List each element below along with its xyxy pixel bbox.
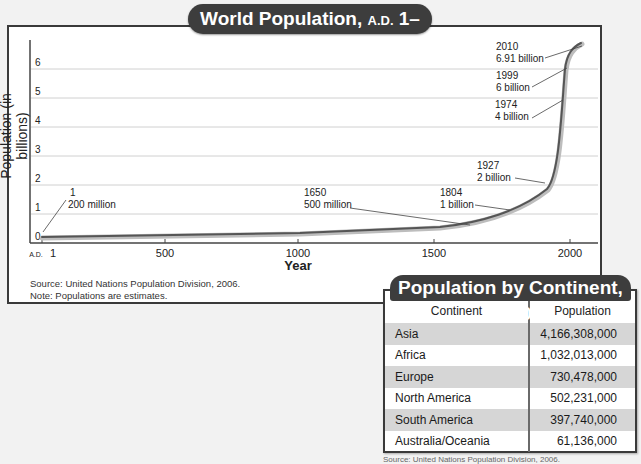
table-row: Australia/Oceania 61,136,000 [385, 431, 635, 453]
annotation-1-year: 1 [70, 187, 76, 198]
annotation-1999-year: 1999 [496, 70, 519, 81]
chart-source: Source: United Nations Population Divisi… [30, 278, 240, 290]
annotation-1999-value: 6 billion [496, 82, 530, 93]
y-tick-6: 6 [35, 57, 41, 68]
chart-source-note: Source: United Nations Population Divisi… [30, 278, 240, 302]
annotation-1927-value: 2 billion [477, 172, 511, 183]
annotation-2010-year: 2010 [496, 41, 519, 52]
annotation-1927-year: 1927 [477, 160, 500, 171]
continent-cell: South America [385, 409, 529, 431]
continent-cell: Europe [385, 366, 529, 388]
column-header-population: Population [529, 299, 635, 323]
x-tick-1500: 1500 [422, 247, 446, 259]
y-tick-5: 5 [35, 86, 41, 97]
annotation-1650-year: 1650 [304, 187, 327, 198]
continent-cell: Australia/Oceania [385, 431, 529, 453]
population-cell: 502,231,000 [529, 388, 635, 410]
table-row: Africa 1,032,013,000 [385, 345, 635, 367]
x-tick-1: 1 [50, 247, 56, 259]
x-axis-label: Year [284, 258, 311, 273]
annotation-1974-year: 1974 [495, 99, 518, 110]
population-cell: 397,740,000 [529, 409, 635, 431]
table-source: Source: United Nations Population Divisi… [383, 455, 560, 464]
continent-cell: North America [385, 388, 529, 410]
y-tick-2: 2 [35, 173, 41, 184]
population-cell: 1,032,013,000 [529, 345, 635, 367]
y-tick-4: 4 [35, 115, 41, 126]
table-row: Europe 730,478,000 [385, 366, 635, 388]
y-tick-1: 1 [35, 202, 41, 213]
population-cell: 61,136,000 [529, 431, 635, 453]
y-tick-3: 3 [35, 144, 41, 155]
annotation-1650-value: 500 million [304, 199, 352, 210]
x-tick-ad: A.D. [29, 251, 43, 258]
chart-note: Note: Populations are estimates. [30, 290, 240, 302]
annotation-1974-value: 4 billion [495, 111, 529, 122]
line-chart-plot: 0 1 2 3 4 5 6 A.D. 1 500 1000 1500 2000 … [0, 0, 641, 305]
table-title: Population by Continent, 2010 [390, 275, 631, 301]
population-cell: 730,478,000 [529, 366, 635, 388]
annotation-1-value: 200 million [68, 199, 116, 210]
table-row: South America 397,740,000 [385, 409, 635, 431]
x-tick-2000: 2000 [558, 247, 582, 259]
annotation-1804-value: 1 billion [440, 199, 474, 210]
x-tick-500: 500 [156, 247, 174, 259]
table-row: North America 502,231,000 [385, 388, 635, 410]
population-cell: 4,166,308,000 [529, 323, 635, 345]
annotation-2010-value: 6.91 billion [496, 53, 544, 64]
continent-cell: Africa [385, 345, 529, 367]
annotation-1804-year: 1804 [440, 187, 463, 198]
